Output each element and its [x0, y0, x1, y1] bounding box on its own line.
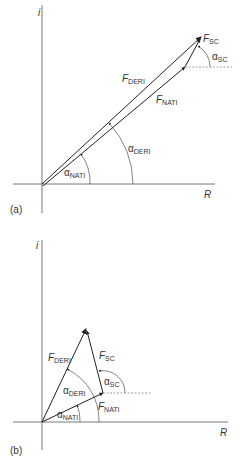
alpha-sc-arc	[198, 46, 210, 67]
vector-diagram: i R (a) FSC αSC FDERI FNATI αDERI αNATI …	[0, 0, 244, 463]
f-deri-vector	[42, 37, 201, 184]
panel-tag-b: (b)	[10, 445, 22, 456]
panel-b: i R (b) FDERI FSC αSC αDERI FNATI αNATI	[10, 240, 228, 456]
label-alpha-sc: αSC	[212, 51, 228, 63]
label-alpha-nati: αNATI	[64, 167, 85, 179]
f-deri-vector	[42, 329, 86, 422]
label-f-nati: FNATI	[98, 401, 120, 413]
label-alpha-nati: αNATI	[57, 409, 78, 421]
alpha-nati-arc	[81, 154, 90, 184]
label-alpha-deri: αDERI	[128, 143, 151, 155]
f-sc-vector	[87, 331, 103, 393]
label-alpha-deri: αDERI	[63, 385, 86, 397]
label-f-deri: FDERI	[48, 352, 71, 364]
label-f-nati: FNATI	[156, 94, 178, 106]
panel-a: i R (a) FSC αSC FDERI FNATI αDERI αNATI	[10, 5, 232, 215]
axis-label-r: R	[204, 189, 211, 200]
panel-tag-a: (a)	[10, 204, 22, 215]
label-alpha-sc: αSC	[104, 376, 120, 388]
axis-label-r: R	[220, 427, 227, 438]
label-f-sc: FSC	[99, 350, 115, 362]
axis-label-i: i	[38, 7, 41, 18]
axis-label-i: i	[36, 240, 39, 251]
label-f-deri: FDERI	[122, 73, 145, 85]
f-sc-vector	[185, 39, 200, 67]
label-f-sc: FSC	[203, 33, 219, 45]
